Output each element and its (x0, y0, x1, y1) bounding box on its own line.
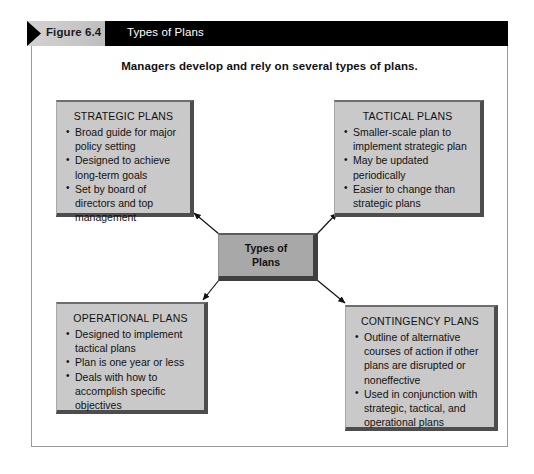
plan-box-contingency: CONTINGENCY PLANS Outline of alternative… (345, 305, 498, 431)
center-label: Types of Plans (245, 242, 287, 269)
plan-box-title: CONTINGENCY PLANS (355, 315, 485, 327)
figure-number-label: Figure 6.4 (46, 26, 101, 38)
plan-box-title: STRATEGIC PLANS (66, 110, 181, 122)
plan-box-list: Designed to implement tactical plans Pla… (66, 327, 195, 412)
plan-box-operational: OPERATIONAL PLANS Designed to implement … (56, 302, 208, 414)
plan-box-title: OPERATIONAL PLANS (66, 312, 195, 324)
list-item: Used in conjunction with strategic, tact… (355, 387, 485, 430)
plan-box-center: Types of Plans (218, 233, 318, 281)
figure-header: Figure 6.4 Types of Plans (27, 21, 508, 46)
plan-box-tactical: TACTICAL PLANS Smaller-scale plan to imp… (334, 100, 484, 217)
list-item: Outline of alternative courses of action… (355, 330, 485, 387)
plan-box-list: Outline of alternative courses of action… (355, 330, 485, 429)
list-item: Deals with how to accomplish specific ob… (66, 370, 195, 413)
list-item: Easier to change than strategic plans (344, 182, 471, 210)
list-item: Designed to implement tactical plans (66, 327, 195, 355)
list-item: Broad guide for major policy setting (66, 125, 181, 153)
figure-title: Types of Plans (127, 26, 204, 38)
list-item: May be updated periodically (344, 153, 471, 181)
list-item: Smaller-scale plan to implement strategi… (344, 125, 471, 153)
plan-box-list: Smaller-scale plan to implement strategi… (344, 125, 471, 210)
plan-box-strategic: STRATEGIC PLANS Broad guide for major po… (56, 100, 194, 217)
list-item: Set by board of directors and top manage… (66, 182, 181, 225)
list-item: Designed to achieve long-term goals (66, 153, 181, 181)
list-item: Plan is one year or less (66, 355, 195, 369)
figure-subtitle: Managers develop and rely on several typ… (31, 60, 508, 72)
plan-box-title: TACTICAL PLANS (344, 110, 471, 122)
plan-box-list: Broad guide for major policy setting Des… (66, 125, 181, 224)
